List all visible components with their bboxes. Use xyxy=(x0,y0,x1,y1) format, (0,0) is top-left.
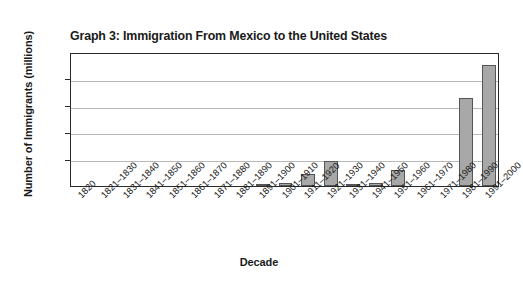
gridline xyxy=(71,81,498,82)
x-axis-title: Decade xyxy=(0,256,518,268)
gridline xyxy=(71,134,498,135)
gridline xyxy=(71,108,498,109)
chart-title: Graph 3: Immigration From Mexico to the … xyxy=(70,29,510,43)
gridline xyxy=(71,161,498,162)
x-axis-ticks: 18201821–18301831–18401841–18501851–1860… xyxy=(0,189,518,251)
y-axis-title: Number of Immigrants (millions) xyxy=(22,14,34,214)
